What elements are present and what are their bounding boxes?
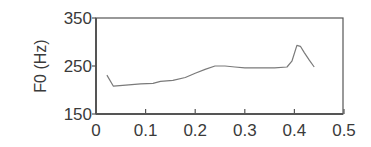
x-tick-label: 0.5: [332, 121, 356, 140]
x-tick-label: 0.3: [233, 121, 257, 140]
x-tick-label: 0.1: [134, 121, 158, 140]
y-tick-label: 150: [64, 105, 92, 124]
f0-line-chart: 00.10.20.30.40.5 150250350 F0 (Hz): [0, 0, 371, 147]
f0-series-line: [107, 45, 314, 86]
y-tick-label: 250: [64, 57, 92, 76]
y-axis-ticks: 150250350: [64, 9, 96, 124]
y-tick-label: 350: [64, 9, 92, 28]
y-axis-label: F0 (Hz): [32, 39, 49, 92]
x-tick-label: 0: [91, 121, 100, 140]
x-tick-label: 0.2: [183, 121, 207, 140]
x-tick-label: 0.4: [283, 121, 307, 140]
